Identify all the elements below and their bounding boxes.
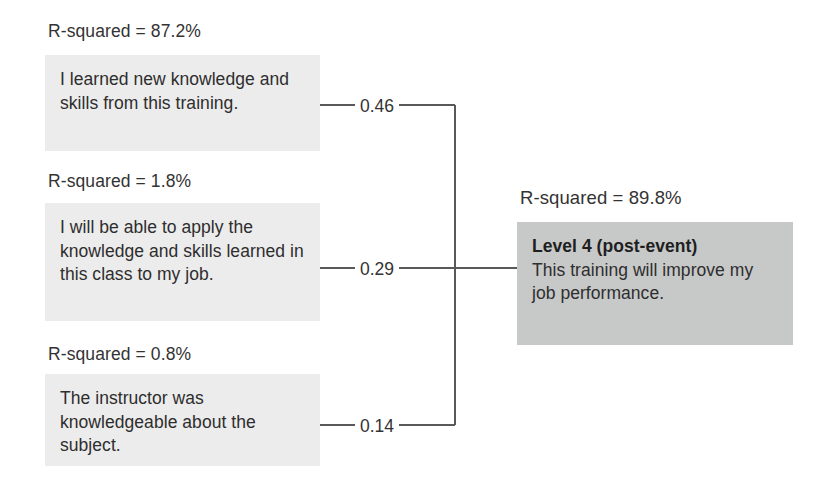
rsquared-label-predictor-3: R-squared = 0.8%	[48, 345, 191, 364]
predictor-text-1: I learned new knowledge and skills from …	[60, 68, 306, 115]
outcome-box: Level 4 (post-event) This training will …	[517, 222, 793, 345]
rsquared-label-predictor-1: R-squared = 87.2%	[48, 22, 201, 41]
predictor-text-3: The instructor was knowledgeable about t…	[60, 387, 306, 458]
predictor-text-2: I will be able to apply the knowledge an…	[60, 216, 306, 287]
predictor-box-3: The instructor was knowledgeable about t…	[45, 374, 320, 466]
predictor-box-1: I learned new knowledge and skills from …	[45, 55, 320, 151]
predictor-box-2: I will be able to apply the knowledge an…	[45, 203, 320, 321]
rsquared-label-outcome: R-squared = 89.8%	[520, 188, 682, 208]
path-diagram: R-squared = 87.2% I learned new knowledg…	[0, 0, 837, 498]
coefficient-label-2: 0.29	[355, 259, 399, 281]
outcome-text: This training will improve my job perfor…	[532, 259, 779, 306]
coefficient-label-1: 0.46	[355, 96, 399, 118]
coefficient-label-3: 0.14	[355, 416, 399, 438]
outcome-title: Level 4 (post-event)	[532, 235, 779, 259]
rsquared-label-predictor-2: R-squared = 1.8%	[48, 172, 191, 191]
